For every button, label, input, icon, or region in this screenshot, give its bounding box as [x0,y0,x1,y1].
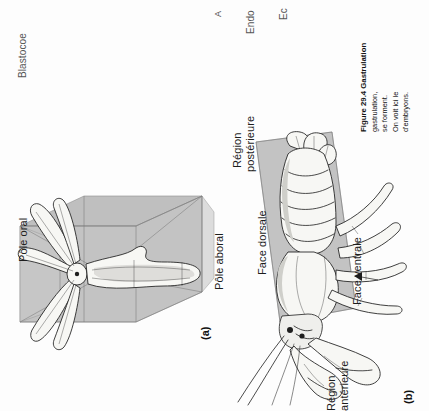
lobster-eye-left [287,327,293,333]
antenna-2 [248,340,288,405]
caption-line-4: se forment. [380,0,391,132]
panel-a-diagram [14,152,214,362]
blastocoel-label-clipped: Blastocoe [18,33,29,78]
face-ventrale-label: Face ventrale [352,237,364,305]
face-dorsale-label: Face dorsale [257,210,269,275]
caption-number: Figure 29.4 [359,91,368,132]
region-anterieure-label-line1: Région [326,376,338,411]
region-posterieure-label-line2: postérieure [245,116,257,172]
antenna-1 [238,336,284,402]
panel-b-tag: (b) [403,390,415,404]
caption-line-6: d'embryons. [401,0,412,132]
region-posterieure-label-line1: Région [232,133,244,168]
archenteron-label-clipped: A [214,11,223,17]
lobster-carapace [276,252,338,323]
caption-title: Gastrulation [359,43,368,89]
caption-line-3: gastrulation, [370,0,381,132]
sea-star-mouth [75,272,79,276]
pole-aboral-label: Pôle aboral [214,233,226,290]
caption-line-5: On voit ici le [391,0,402,132]
figure-caption: Figure 29.4 Gastrulation gastrulation, s… [358,0,412,132]
region-anterieure-label-line2: antérieure [339,360,351,411]
endoderm-label-clipped: Endo [246,10,257,34]
figure-page: Blastocoe A Endo Ec [0,0,429,411]
pole-oral-label: Pôle oral [18,218,30,262]
sea-star-radial-symmetry-svg [14,152,214,362]
antenna-3 [272,344,294,405]
ectoderm-label-clipped: Ec [279,8,290,20]
walking-leg-1 [336,183,393,236]
panel-a-tag: (a) [200,327,212,340]
